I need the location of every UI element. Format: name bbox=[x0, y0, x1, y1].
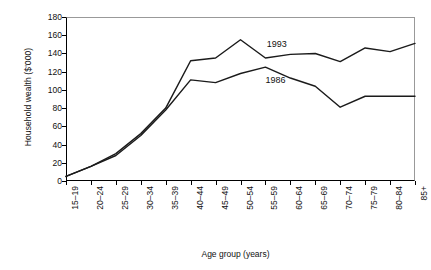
series-lines bbox=[0, 0, 431, 270]
x-axis-title: Age group (years) bbox=[0, 249, 431, 259]
series-label-1993: 1993 bbox=[267, 39, 287, 49]
series-line-1986 bbox=[66, 67, 415, 176]
series-line-1993 bbox=[66, 40, 415, 177]
series-label-1986: 1986 bbox=[265, 75, 285, 85]
wealth-by-age-line-chart: Household wealth ($'000) 020406080100120… bbox=[0, 0, 431, 270]
x-axis-title-text: Age group (years) bbox=[201, 249, 269, 259]
